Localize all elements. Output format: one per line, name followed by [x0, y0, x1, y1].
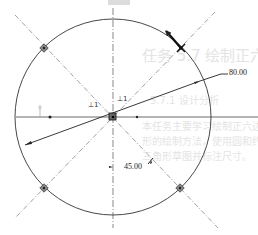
perpendicular-constraint-1[interactable]: ⊥1	[88, 101, 99, 109]
radius-dimension-label[interactable]: 80.00	[229, 68, 247, 77]
angle-arrow-vertical	[109, 166, 113, 168]
radius-arrow-left	[25, 141, 32, 145]
angle-dimension-label[interactable]: 45.00	[124, 162, 142, 171]
perpendicular-constraint-2[interactable]: ⊥1	[117, 95, 128, 103]
radius-arrow-right	[194, 81, 200, 84]
intersection-marker-upper-right	[177, 44, 185, 52]
sketch-geometry	[0, 0, 258, 235]
cad-sketch-canvas: 任务 5.7 绘制正六边形 5.7.1 设计分析 本任务主要学习绘制正六边形，正…	[0, 0, 258, 235]
axis-point-right	[136, 116, 138, 118]
axis-point-left	[49, 116, 52, 119]
center-point-marker	[109, 113, 116, 120]
